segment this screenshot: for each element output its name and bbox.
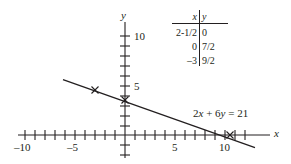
equation-plus: + — [203, 107, 215, 119]
table-header-x: x — [172, 12, 197, 22]
xtick-label-neg10: –10 — [14, 142, 31, 153]
ytick-label-5: 5 — [134, 81, 140, 92]
equation-constant: 21 — [237, 107, 248, 119]
table-cell-y-1: 7/2 — [202, 42, 215, 52]
coordinate-plane — [0, 0, 291, 164]
graph-figure: –10 –5 5 10 5 10 x y 2x + 6y = 21 x y 2-… — [0, 0, 291, 164]
ytick-label-10: 10 — [134, 31, 145, 42]
xtick-label-neg5: –5 — [67, 142, 78, 153]
table-header-divider — [172, 23, 228, 24]
table-cell-y-2: 9/2 — [202, 56, 215, 66]
xtick-label-5: 5 — [172, 142, 178, 153]
table-cell-x-1: 0 — [172, 42, 197, 52]
table-cell-x-2: –3 — [172, 56, 197, 66]
table-cell-y-0: 0 — [202, 28, 207, 38]
table-header-y: y — [202, 12, 206, 22]
table-cell-x-0: 2-1/2 — [172, 28, 197, 38]
equation-annotation: 2x + 6y = 21 — [193, 108, 248, 119]
value-table: x y 2-1/2 0 0 7/2 –3 9/2 — [172, 10, 228, 66]
x-axis-label: x — [274, 128, 279, 139]
y-axis-label: y — [121, 10, 126, 21]
equation-equals: = — [226, 107, 238, 119]
table-column-divider — [199, 10, 200, 66]
xtick-label-10: 10 — [219, 142, 230, 153]
